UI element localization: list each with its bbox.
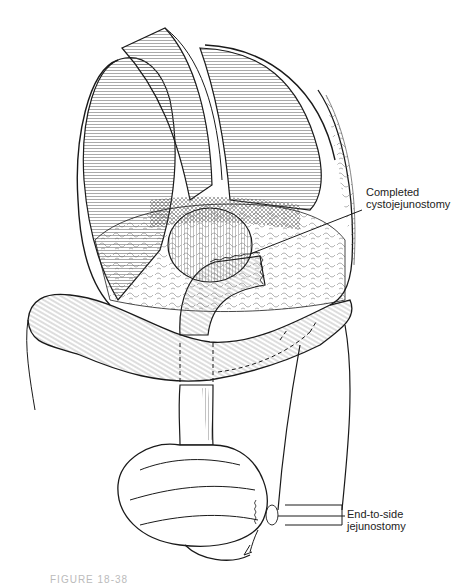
label-line: End-to-side [347,508,406,520]
anatomical-illustration [0,0,467,583]
small-bowel-loops [118,444,267,560]
label-line: jejunostomy [347,520,406,532]
label-line: cystojejunostomy [366,198,450,210]
proximal-jejunum [179,385,213,445]
label-line: Completed [366,186,450,198]
figure-caption: FIGURE 18-38 [50,574,128,583]
label-completed-cystojejunostomy: Completed cystojejunostomy [366,186,450,210]
stomach-right-lobe [200,45,335,210]
label-end-to-side-jejunostomy: End-to-side jejunostomy [347,508,406,532]
